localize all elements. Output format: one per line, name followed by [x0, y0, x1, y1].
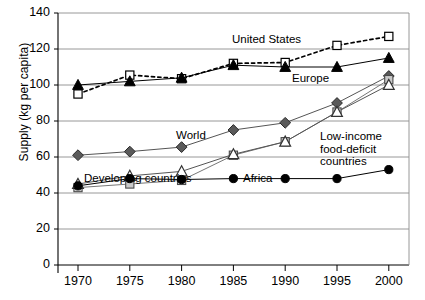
data-point-marker: [124, 146, 135, 157]
data-point-marker: [333, 41, 341, 49]
x-tick-label: 1980: [156, 274, 208, 288]
data-point-marker: [228, 125, 239, 136]
y-tick-label: 60: [16, 149, 50, 163]
data-point-marker: [73, 150, 84, 161]
series-annotation-label: Europe: [292, 72, 329, 85]
y-tick-label: 80: [16, 113, 50, 127]
y-tick-label: 20: [16, 221, 50, 235]
x-tick-label: 1985: [207, 274, 259, 288]
data-point-marker: [281, 175, 289, 183]
series-markers: [73, 32, 395, 191]
data-point-marker: [74, 90, 82, 98]
x-tick-label: 1995: [311, 274, 363, 288]
series-europe: [73, 52, 395, 89]
data-point-marker: [385, 32, 393, 40]
series-annotation-label: World: [176, 129, 206, 142]
series-annotation-label: Developing countries: [84, 172, 191, 185]
data-point-marker: [280, 117, 291, 128]
y-tick-label: 0: [16, 257, 50, 271]
data-point-marker: [383, 52, 394, 62]
data-point-marker: [385, 166, 393, 174]
series-annotation-label: Africa: [243, 172, 272, 185]
data-point-marker: [333, 175, 341, 183]
data-point-marker: [229, 175, 237, 183]
y-tick-label: 100: [16, 77, 50, 91]
x-tick-label: 1970: [52, 274, 104, 288]
data-point-marker: [74, 182, 82, 190]
data-point-marker: [176, 142, 187, 153]
y-tick-label: 40: [16, 185, 50, 199]
x-tick-label: 1990: [259, 274, 311, 288]
x-tick-label: 2000: [363, 274, 415, 288]
supply-per-capita-line-chart: Supply (kg per capita) 02040608010012014…: [0, 0, 425, 300]
series-annotation-label: United States: [232, 33, 301, 46]
x-tick-label: 1975: [104, 274, 156, 288]
y-tick-label: 140: [16, 5, 50, 19]
series-annotation-label: Low-income food-deficit countries: [320, 130, 382, 168]
y-tick-label: 120: [16, 41, 50, 55]
